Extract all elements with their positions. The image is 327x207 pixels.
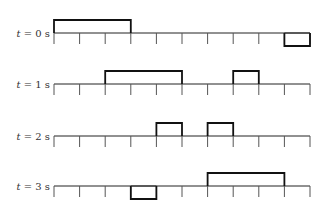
time-row: t = 2 s: [17, 123, 310, 147]
time-value: = 1 s: [21, 79, 50, 90]
time-row: t = 3 s: [17, 173, 310, 199]
positive-pulse: [54, 20, 131, 33]
positive-pulse: [208, 123, 234, 136]
rows-layer: t = 0 st = 1 st = 2 st = 3 s: [17, 20, 310, 199]
negative-pulse: [284, 33, 310, 46]
time-row: t = 0 s: [17, 20, 310, 46]
positive-pulse: [208, 173, 285, 186]
time-label: t = 0 s: [17, 28, 50, 39]
positive-pulse: [233, 71, 259, 84]
time-value: = 2 s: [21, 131, 50, 142]
wave-pulse-diagram: t = 0 st = 1 st = 2 st = 3 s: [0, 0, 327, 207]
time-value: = 0 s: [21, 28, 50, 39]
time-label: t = 2 s: [17, 131, 50, 142]
time-value: = 3 s: [21, 181, 50, 192]
time-label: t = 3 s: [17, 181, 50, 192]
positive-pulse: [156, 123, 182, 136]
negative-pulse: [131, 186, 157, 199]
positive-pulse: [105, 71, 182, 84]
time-row: t = 1 s: [17, 71, 310, 95]
time-label: t = 1 s: [17, 79, 50, 90]
